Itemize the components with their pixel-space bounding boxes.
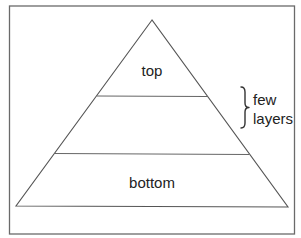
layer-label-top: top — [142, 62, 163, 79]
pyramid-diagram: top bottom few layers — [0, 0, 301, 238]
diagram-frame — [10, 6, 295, 234]
layer-label-bottom: bottom — [129, 174, 175, 191]
annotation-line-1: few — [253, 91, 277, 108]
annotation-line-2: layers — [253, 110, 293, 127]
divider-top-middle — [97, 96, 207, 97]
